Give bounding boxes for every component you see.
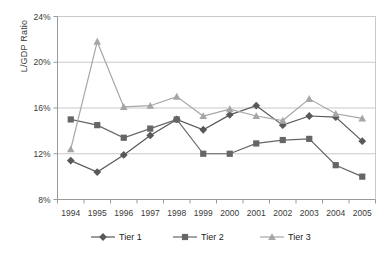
legend-item-tier-2[interactable]: Tier 2 [173, 232, 224, 242]
legend-label: Tier 1 [119, 232, 142, 242]
x-tick-label: 2003 [300, 208, 319, 218]
data-point [359, 174, 365, 180]
x-tick-label: 1997 [141, 208, 160, 218]
data-point [121, 135, 127, 141]
series-line [71, 119, 363, 176]
series-line [71, 106, 363, 172]
legend-label: Tier 3 [288, 232, 311, 242]
data-point [200, 151, 206, 157]
data-point [94, 122, 100, 128]
x-tick-label: 2002 [273, 208, 292, 218]
data-point [68, 116, 74, 122]
x-tick-label: 2000 [220, 208, 239, 218]
gridlines-group [58, 17, 376, 154]
data-point [67, 157, 75, 165]
legend-label: Tier 2 [201, 232, 224, 242]
y-tick-label: 16% [33, 103, 50, 113]
y-axis-ticks: 8%12%16%20%24% [33, 12, 57, 205]
y-tick-label: 8% [38, 195, 51, 205]
data-point [306, 136, 312, 142]
data-point [67, 145, 75, 152]
x-tick-label: 1996 [114, 208, 133, 218]
x-tick-label: 1998 [167, 208, 186, 218]
data-point [174, 116, 180, 122]
x-axis-ticks: 1994199519961997199819992000200120022003… [58, 200, 376, 218]
legend-marker [99, 233, 107, 241]
data-point [226, 105, 234, 112]
x-tick-label: 1994 [61, 208, 80, 218]
chart-container: L/GDP Ratio 8%12%16%20%24% 1994199519961… [0, 0, 392, 253]
series-tier-3 [67, 38, 366, 152]
data-point [253, 140, 259, 146]
chart-legend: Tier 1Tier 2Tier 3 [91, 232, 311, 242]
data-point [93, 38, 101, 45]
y-tick-label: 24% [33, 12, 50, 22]
line-chart-plot: 8%12%16%20%24% 1994199519961997199819992… [0, 0, 392, 253]
data-point [173, 93, 181, 100]
data-point [305, 95, 313, 102]
data-point [227, 151, 233, 157]
legend-item-tier-3[interactable]: Tier 3 [260, 232, 311, 242]
data-point [147, 125, 153, 131]
data-point [332, 110, 340, 117]
series-tier-2 [68, 116, 366, 179]
legend-item-tier-1[interactable]: Tier 1 [91, 232, 142, 242]
data-point [93, 168, 101, 176]
y-tick-label: 20% [33, 57, 50, 67]
y-tick-label: 12% [33, 149, 50, 159]
data-point [280, 137, 286, 143]
data-point [199, 126, 207, 134]
legend-marker [182, 234, 188, 240]
x-tick-label: 1999 [194, 208, 213, 218]
x-tick-label: 2004 [326, 208, 345, 218]
data-point [305, 112, 313, 120]
x-tick-label: 2001 [247, 208, 266, 218]
x-tick-label: 2005 [353, 208, 372, 218]
x-tick-label: 1995 [88, 208, 107, 218]
data-series-group [67, 38, 366, 180]
data-point [333, 162, 339, 168]
